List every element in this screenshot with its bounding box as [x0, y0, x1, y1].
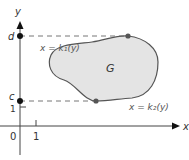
point-c: [17, 98, 23, 104]
point-d: [17, 33, 23, 39]
x-tick-label: 1: [33, 131, 39, 142]
diagram-canvas: y x d c 1 0 1 G x = k₁(y) x = k₂(y): [0, 0, 189, 160]
left-boundary-label: x = k₁(y): [39, 43, 80, 53]
region-top-point: [125, 33, 130, 38]
region-bottom-point: [93, 98, 98, 103]
origin-label: 0: [10, 131, 16, 142]
c-label: c: [9, 91, 15, 102]
y-tick-label: 1: [10, 104, 16, 114]
region-label: G: [106, 62, 115, 75]
x-axis-arrow-icon: [172, 123, 180, 130]
y-axis-arrow-icon: [17, 21, 24, 29]
x-axis-label: x: [182, 121, 189, 132]
d-label: d: [8, 31, 15, 42]
y-axis-label: y: [14, 6, 22, 17]
right-boundary-label: x = k₂(y): [128, 102, 169, 112]
